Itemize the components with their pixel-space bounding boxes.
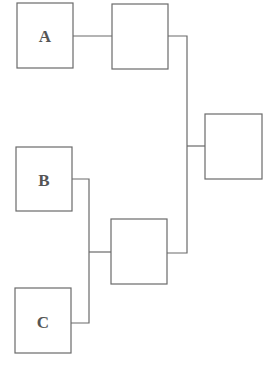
box-a-label: A bbox=[39, 27, 52, 46]
box-b-label: B bbox=[38, 171, 49, 190]
box-c-label: C bbox=[37, 313, 49, 332]
box-bottom-middle bbox=[111, 219, 167, 284]
connector-b-c bbox=[71, 179, 89, 323]
bracket-diagram: A B C bbox=[0, 0, 264, 373]
connector-middles-to-final bbox=[167, 36, 187, 253]
box-final bbox=[205, 114, 262, 179]
box-top-middle bbox=[112, 4, 168, 69]
